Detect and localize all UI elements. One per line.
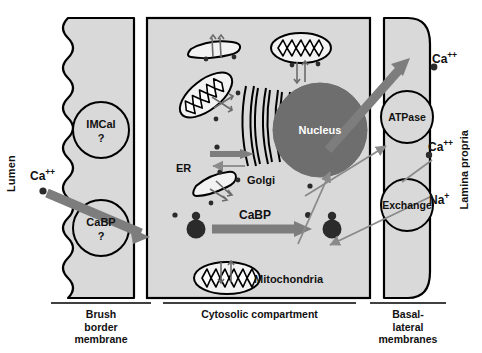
label-mitochondria: Mitochondria — [254, 273, 323, 285]
diagram-svg — [0, 0, 482, 353]
label-cabp-flow: CaBP — [239, 208, 271, 222]
transporter-label-atpase: ATPase — [377, 111, 437, 123]
ion-label-ca-out-mid: Ca++ — [428, 138, 452, 154]
ion-label-ca-lumen: Ca++ — [30, 167, 54, 183]
label-er: ER — [176, 162, 191, 174]
transporter-sublabel-imcal: ? — [71, 132, 131, 144]
label-nucleus: Nucleus — [285, 124, 355, 136]
caption-cytosolic-compartment: Cytosolic compartment — [163, 308, 356, 320]
transporter-label-imcal: IMCal — [71, 118, 131, 130]
ion-label-na-out: Na+ — [429, 191, 449, 207]
transporter-imcal[interactable] — [73, 102, 129, 158]
caption-brush-border: Brushbordermembrane — [51, 308, 151, 346]
transporter-sublabel-cabp: ? — [71, 230, 131, 242]
caption-basal-lateral: Basal-lateralmembranes — [370, 308, 446, 346]
organelle-mitochondrion-cristae-3 — [194, 261, 260, 294]
ion-label-ca-out-top: Ca++ — [432, 50, 456, 66]
label-lamina-propria: Lamina propria — [458, 130, 470, 209]
label-lumen: Lumen — [5, 155, 17, 192]
label-golgi: Golgi — [247, 174, 275, 186]
figure-canvas: Lumen Ca++ IMCal ? CaBP ? ER Golgi Nucle… — [0, 0, 482, 353]
transporter-label-cabp: CaBP — [71, 216, 131, 228]
